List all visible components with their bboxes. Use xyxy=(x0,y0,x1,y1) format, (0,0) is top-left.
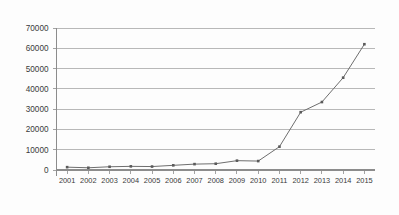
x-axis-tick-labels: 2001200220032004200520062007200820092010… xyxy=(59,170,373,185)
x-tick-label-2005: 2005 xyxy=(144,176,160,185)
data-point-2012 xyxy=(299,111,302,114)
y-tick-label-70000: 70000 xyxy=(26,24,49,33)
y-axis-tick-labels: 010000200003000040000500006000070000 xyxy=(26,24,49,175)
x-tick-label-2008: 2008 xyxy=(208,176,224,185)
axes xyxy=(57,28,376,176)
x-tick-label-2010: 2010 xyxy=(250,176,266,185)
data-series xyxy=(67,44,364,168)
y-tick-label-10000: 10000 xyxy=(26,146,49,155)
x-tick-label-2012: 2012 xyxy=(292,176,308,185)
data-point-2003 xyxy=(108,165,111,168)
data-point-2002 xyxy=(87,166,90,169)
data-point-2011 xyxy=(278,145,281,148)
x-tick-label-2014: 2014 xyxy=(335,176,351,185)
x-tick-label-2009: 2009 xyxy=(229,176,245,185)
data-point-2009 xyxy=(236,159,239,162)
line-chart: 0100002000030000400005000060000700002001… xyxy=(0,0,399,215)
data-point-2013 xyxy=(321,101,324,104)
y-tick-label-0: 0 xyxy=(44,166,49,175)
x-tick-label-2011: 2011 xyxy=(271,176,287,185)
y-tick-label-50000: 50000 xyxy=(26,65,49,74)
x-tick-label-2002: 2002 xyxy=(80,176,96,185)
y-tick-label-30000: 30000 xyxy=(26,105,49,114)
data-point-2014 xyxy=(342,76,345,79)
x-tick-label-2013: 2013 xyxy=(314,176,330,185)
data-point-2004 xyxy=(130,165,133,168)
data-point-2001 xyxy=(66,166,69,169)
y-tick-label-40000: 40000 xyxy=(26,85,49,94)
y-tick-label-60000: 60000 xyxy=(26,44,49,53)
x-tick-label-2006: 2006 xyxy=(165,176,181,185)
data-point-2005 xyxy=(151,165,154,168)
x-tick-label-2015: 2015 xyxy=(356,176,372,185)
series-line xyxy=(67,44,364,168)
data-point-2007 xyxy=(193,163,196,166)
data-point-2006 xyxy=(172,164,175,167)
chart-canvas: 0100002000030000400005000060000700002001… xyxy=(0,0,399,215)
x-tick-label-2003: 2003 xyxy=(101,176,117,185)
y-tick-label-20000: 20000 xyxy=(26,125,49,134)
y-gridlines xyxy=(53,28,376,170)
data-markers xyxy=(66,43,366,169)
data-point-2008 xyxy=(214,162,217,165)
data-point-2015 xyxy=(363,43,366,46)
x-tick-label-2004: 2004 xyxy=(123,176,139,185)
x-tick-label-2007: 2007 xyxy=(186,176,202,185)
x-tick-label-2001: 2001 xyxy=(59,176,75,185)
data-point-2010 xyxy=(257,160,260,163)
